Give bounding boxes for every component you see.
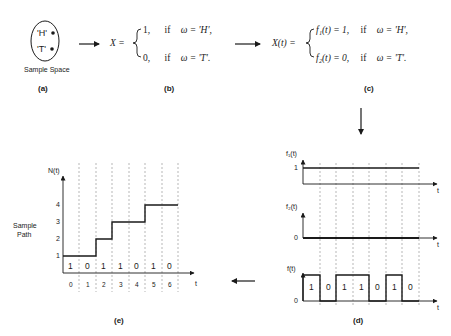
f1-ytick: 1 <box>294 164 298 171</box>
panel-label-c: (c) <box>364 84 374 93</box>
e-xtick-2: 2 <box>102 281 106 288</box>
e-ytick-4: 4 <box>56 201 60 208</box>
plot-sample-path <box>63 176 194 273</box>
f2-ytick: 0 <box>294 234 298 241</box>
e-bit-2: 1 <box>101 261 106 271</box>
f-xlabel: t <box>437 304 439 311</box>
d-bit-1: 0 <box>326 282 331 292</box>
e-bit-1: 0 <box>85 261 90 271</box>
d-bit-2: 1 <box>342 282 347 292</box>
e-ytick-2: 2 <box>56 235 60 242</box>
b-case-1-value: 1, <box>143 25 150 35</box>
b-case-2: 0, if ω = 'T'. <box>143 53 210 63</box>
panel-label-e: (e) <box>114 316 124 325</box>
e-bit-3: 1 <box>118 261 123 271</box>
e-xtick-3: 3 <box>119 281 123 288</box>
sample-path-label-2: Path <box>17 231 31 238</box>
e-xtick-6: 6 <box>168 281 172 288</box>
e-xtick-1: 1 <box>86 281 90 288</box>
f-ylabel: f(t) <box>287 265 296 272</box>
b-lhs: X = <box>110 38 125 48</box>
e-xtick-4: 4 <box>135 281 139 288</box>
c-case-1: f₁(t) = 1, if ω = 'H', <box>316 25 408 35</box>
e-ylabel: N(t) <box>48 167 60 174</box>
d-bit-0: 1 <box>309 282 314 292</box>
panel-label-b: (b) <box>164 84 174 93</box>
d-bit-5: 1 <box>392 282 397 292</box>
plot-f2 <box>303 213 437 238</box>
c-case-1-if: if <box>361 25 367 35</box>
d-bit-4: 0 <box>375 282 380 292</box>
b-case-1-cond: ω = 'H', <box>181 25 212 35</box>
outcome-h-label: 'H' <box>37 28 47 38</box>
e-bit-4: 0 <box>134 261 139 271</box>
panel-label-d: (d) <box>353 316 363 325</box>
c-case-1-cond: ω = 'H', <box>377 25 408 35</box>
diagram-graphics <box>0 0 451 336</box>
b-case-1: 1, if ω = 'H', <box>143 25 212 35</box>
e-xlabel: t <box>195 280 197 287</box>
e-bit-0: 1 <box>68 261 73 271</box>
e-bit-5: 1 <box>151 261 156 271</box>
sample-space <box>31 21 59 61</box>
e-ytick-3: 3 <box>56 218 60 225</box>
b-case-2-value: 0, <box>143 53 150 63</box>
c-case-1-value: f₁(t) = 1, <box>316 25 349 35</box>
c-lhs: X(t) = <box>272 38 296 48</box>
f2-xlabel: t <box>437 241 439 248</box>
c-case-2-cond: ω = 'T'. <box>377 53 407 63</box>
sample-space-caption: Sample Space <box>24 66 70 73</box>
e-bit-6: 0 <box>167 261 172 271</box>
c-case-2: f₂(t) = 0, if ω = 'T'. <box>316 53 406 63</box>
b-case-1-if: if <box>165 25 171 35</box>
c-case-2-if: if <box>361 53 367 63</box>
plot-f1 <box>303 160 437 184</box>
d-bit-3: 1 <box>359 282 364 292</box>
b-case-2-cond: ω = 'T'. <box>181 53 211 63</box>
f2-ylabel: f₂(t) <box>286 203 297 210</box>
f1-ylabel: f₁(t) <box>286 150 297 157</box>
plot-f <box>303 273 437 301</box>
b-case-2-if: if <box>165 53 171 63</box>
e-ytick-1: 1 <box>56 252 60 259</box>
f1-xlabel: t <box>437 187 439 194</box>
d-bit-6: 0 <box>408 282 413 292</box>
brace-c <box>306 29 314 57</box>
e-xtick-5: 5 <box>152 281 156 288</box>
e-xtick-0: 0 <box>69 281 73 288</box>
outcome-t-label: 'T' <box>37 44 46 54</box>
outcome-h-dot <box>51 31 55 35</box>
outcome-t-dot <box>50 47 54 51</box>
panel-label-a: (a) <box>38 84 48 93</box>
sample-path-label-1: Sample <box>13 222 37 229</box>
f-ytick: 0 <box>294 297 298 304</box>
c-case-2-value: f₂(t) = 0, <box>316 53 349 63</box>
brace-b <box>133 29 141 57</box>
